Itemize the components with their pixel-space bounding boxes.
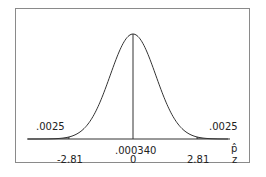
center-z-label: 0 (130, 155, 136, 165)
right-tail-area-label: .0025 (209, 122, 238, 132)
left-z-label: -2.81 (57, 155, 83, 165)
left-tail-area-label: .0025 (36, 122, 65, 132)
right-z-label: 2.81 (187, 155, 209, 165)
axis-phat-label: p̂ (231, 144, 237, 154)
axis-z-label: z (232, 155, 237, 165)
